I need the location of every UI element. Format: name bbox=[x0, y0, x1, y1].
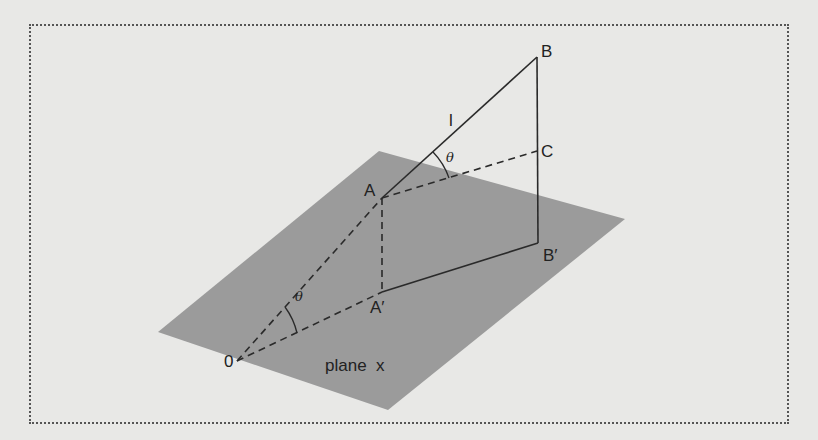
label-B: B bbox=[541, 42, 552, 61]
label-B-prime: B′ bbox=[543, 246, 558, 265]
line-B-Bprime bbox=[537, 57, 538, 243]
label-line-l: l bbox=[449, 111, 453, 130]
label-A: A bbox=[364, 181, 376, 200]
label-C: C bbox=[541, 142, 553, 161]
label-O: 0 bbox=[224, 352, 233, 371]
label-A-prime: A′ bbox=[370, 298, 385, 317]
label-plane-x: plane x bbox=[325, 356, 385, 375]
geometry-diagram: B C B′ A A′ 0 l θ θ plane x bbox=[0, 0, 818, 440]
label-theta-O: θ bbox=[295, 289, 303, 304]
label-theta-A: θ bbox=[446, 150, 454, 165]
